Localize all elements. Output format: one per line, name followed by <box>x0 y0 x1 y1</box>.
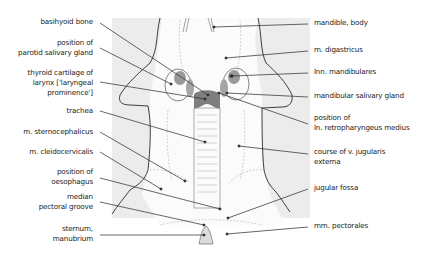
label-line: parotid salivary gland <box>18 48 93 58</box>
label-line: median <box>39 192 93 202</box>
label-pectorales: mm. pectorales <box>314 221 368 231</box>
label-line: m. sternocephalicus <box>23 127 93 137</box>
label-oesophagus: position of oesophagus <box>51 167 93 187</box>
label-line: mm. pectorales <box>314 221 368 231</box>
label-mandibular-gland: mandibular salivary gland <box>314 91 404 101</box>
label-mandible-body: mandible, body <box>314 18 368 28</box>
label-trachea: trachea <box>67 106 93 116</box>
label-line: oesophagus <box>51 177 93 187</box>
label-line: jugular fossa <box>314 183 358 193</box>
label-jugular-fossa: jugular fossa <box>314 183 358 193</box>
label-digastricus: m. digastricus <box>314 45 363 55</box>
label-basihyoid-bone: basihyoid bone <box>40 17 93 27</box>
label-line: m. cleidocervicalis <box>29 147 93 157</box>
label-line: externa <box>314 157 385 167</box>
label-line: m. digastricus <box>314 45 363 55</box>
label-pectoral-groove: median pectoral groove <box>39 192 93 212</box>
label-line: basihyoid bone <box>40 17 93 27</box>
label-cleidocervicalis: m. cleidocervicalis <box>29 147 93 157</box>
label-line: prominence'] <box>28 88 93 98</box>
label-line: larynx ['laryngeal <box>28 78 93 88</box>
label-parotid-gland: position of parotid salivary gland <box>18 38 93 58</box>
label-line: position of <box>314 113 410 123</box>
label-line: mandible, body <box>314 18 368 28</box>
label-line: lnn. mandibulares <box>314 67 376 77</box>
label-line: position of <box>18 38 93 48</box>
label-thyroid-cartilage: thyroid cartilage of larynx ['laryngeal … <box>28 68 93 98</box>
label-line: mandibular salivary gland <box>314 91 404 101</box>
label-line: trachea <box>67 106 93 116</box>
label-jugularis-externa: course of v. jugularis externa <box>314 147 385 167</box>
label-line: sternum, <box>53 224 93 234</box>
label-retropharyngeus: position of ln. retropharyngeus medius <box>314 113 410 133</box>
label-line: course of v. jugularis <box>314 147 385 157</box>
label-lnn-mandibulares: lnn. mandibulares <box>314 67 376 77</box>
label-line: manubrium <box>53 234 93 244</box>
label-sternocephalicus: m. sternocephalicus <box>23 127 93 137</box>
label-line: ln. retropharyngeus medius <box>314 123 410 133</box>
label-line: thyroid cartilage of <box>28 68 93 78</box>
label-line: position of <box>51 167 93 177</box>
label-line: pectoral groove <box>39 202 93 212</box>
label-sternum-manubrium: sternum, manubrium <box>53 224 93 244</box>
